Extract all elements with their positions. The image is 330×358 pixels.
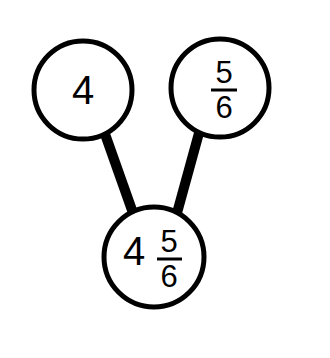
- connector-right-part-to-total: [177, 133, 199, 213]
- node-part-left[interactable]: 4: [34, 41, 132, 139]
- total-whole-part: 4: [123, 229, 145, 273]
- part-right-denominator: 6: [215, 90, 232, 125]
- total-numerator: 5: [160, 224, 177, 259]
- connector-left-part-to-total: [105, 134, 133, 213]
- part-right-numerator: 5: [215, 55, 232, 90]
- total-circle[interactable]: [104, 207, 204, 307]
- number-bond-canvas: 4 5 6 4 5 6: [0, 0, 330, 358]
- number-bond-diagram: 4 5 6 4 5 6: [0, 0, 330, 358]
- part-left-value: 4: [72, 68, 94, 112]
- node-part-right[interactable]: 5 6: [171, 39, 269, 137]
- total-denominator: 6: [160, 259, 177, 294]
- node-total-bottom[interactable]: 4 5 6: [104, 207, 204, 307]
